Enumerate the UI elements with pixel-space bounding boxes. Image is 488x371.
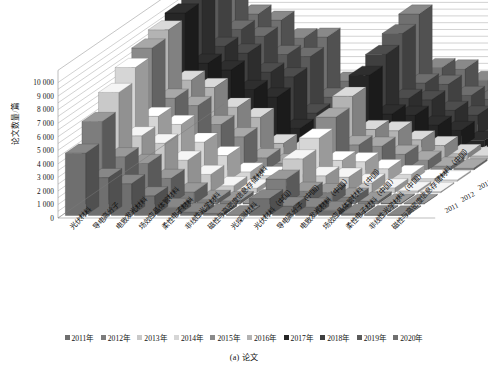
legend-item[interactable]: 2015年 [210, 332, 240, 343]
legend-swatch-icon [320, 335, 325, 340]
chart-legend: 2011年2012年2013年2014年2015年2016年2017年2018年… [0, 332, 488, 343]
legend-swatch-icon [101, 335, 106, 340]
legend-swatch-icon [247, 335, 252, 340]
legend-label: 2020年 [400, 332, 423, 343]
legend-item[interactable]: 2020年 [393, 332, 423, 343]
legend-item[interactable]: 2011年 [65, 332, 95, 343]
y-axis-tick: 0 [12, 214, 54, 223]
legend-swatch-icon [357, 335, 362, 340]
legend-swatch-icon [65, 335, 70, 340]
legend-label: 2018年 [327, 332, 350, 343]
figure-root: 01 0002 0003 0004 0005 0006 0007 0008 00… [0, 0, 488, 371]
legend-label: 2014年 [181, 332, 204, 343]
legend-label: 2013年 [144, 332, 167, 343]
chart-plot-area: 01 0002 0003 0004 0005 0006 0007 0008 00… [0, 0, 488, 300]
legend-item[interactable]: 2018年 [320, 332, 350, 343]
legend-swatch-icon [174, 335, 179, 340]
legend-item[interactable]: 2017年 [284, 332, 314, 343]
legend-label: 2015年 [217, 332, 240, 343]
legend-label: 2016年 [254, 332, 277, 343]
legend-swatch-icon [284, 335, 289, 340]
y-axis-tick: 3 000 [12, 173, 54, 182]
legend-label: 2017年 [291, 332, 314, 343]
legend-item[interactable]: 2013年 [137, 332, 167, 343]
y-axis-tick: 2 000 [12, 187, 54, 196]
legend-item[interactable]: 2016年 [247, 332, 277, 343]
legend-item[interactable]: 2014年 [174, 332, 204, 343]
chart-svg [0, 0, 488, 300]
legend-swatch-icon [393, 335, 398, 340]
legend-label: 2019年 [364, 332, 387, 343]
legend-item[interactable]: 2012年 [101, 332, 131, 343]
legend-label: 2011年 [72, 332, 95, 343]
legend-label: 2012年 [108, 332, 131, 343]
y-axis-tick: 4 000 [12, 160, 54, 169]
y-axis-title: 论文数量/篇 [9, 91, 20, 157]
legend-item[interactable]: 2019年 [357, 332, 387, 343]
legend-swatch-icon [137, 335, 142, 340]
legend-swatch-icon [210, 335, 215, 340]
y-axis-tick: 10 000 [12, 78, 54, 87]
y-axis-tick: 1 000 [12, 200, 54, 209]
figure-caption: (a) 论文 [0, 350, 488, 362]
